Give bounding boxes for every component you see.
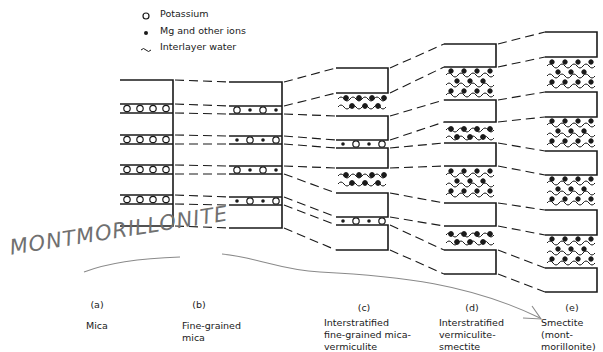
legend-label: Potassium bbox=[160, 6, 209, 23]
legend-item-water: Interlayer water bbox=[158, 39, 246, 56]
mg-ion-legend-icon bbox=[144, 31, 148, 35]
column-b-fine-grained-mica bbox=[229, 82, 282, 228]
legend-item-potassium: Potassium bbox=[158, 6, 246, 23]
column-label-a: Mica bbox=[86, 320, 108, 332]
column-e-smectite bbox=[545, 32, 597, 292]
column-c-mica-vermiculite bbox=[336, 68, 388, 250]
column-label-b: Fine-grained mica bbox=[182, 320, 241, 344]
water-legend-icon bbox=[141, 49, 151, 52]
column-letter-d: (d) bbox=[457, 302, 487, 313]
column-letter-e: (e) bbox=[557, 302, 587, 313]
column-d-vermiculite-smectite bbox=[444, 44, 496, 274]
pencil-underline bbox=[84, 257, 180, 272]
legend: Potassium Mg and other ions Interlayer w… bbox=[158, 6, 246, 56]
legend-label: Mg and other ions bbox=[160, 23, 246, 40]
column-letter-c: (c) bbox=[349, 302, 379, 313]
legend-label: Interlayer water bbox=[160, 39, 236, 56]
column-label-c: Interstratified fine-grained mica- vermi… bbox=[324, 317, 411, 352]
column-a-mica bbox=[120, 80, 173, 226]
column-label-d: Interstratified vermiculite- smectite bbox=[439, 317, 504, 352]
legend-item-mg-ions: Mg and other ions bbox=[158, 23, 246, 40]
pencil-arrow-curve bbox=[222, 254, 540, 318]
legend-symbols bbox=[141, 13, 151, 52]
interlayer-water bbox=[446, 69, 494, 245]
potassium-interlayer bbox=[120, 104, 173, 204]
column-letter-a: (a) bbox=[82, 299, 112, 310]
column-label-e: Smectite (mont- morillonite) bbox=[541, 317, 596, 352]
potassium-legend-icon bbox=[143, 13, 149, 19]
column-letter-b: (b) bbox=[184, 299, 214, 310]
